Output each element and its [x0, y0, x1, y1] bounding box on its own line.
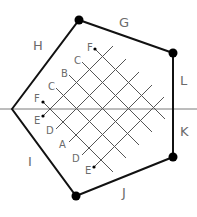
vertex-dot-top-right: [169, 49, 178, 58]
label-dot-e-left: [41, 114, 44, 117]
grid-label-f-left: F: [34, 93, 40, 104]
vertex-dot-bottom-left: [72, 192, 81, 201]
grid-label-a: A: [59, 139, 66, 150]
label-dot-f-top: [93, 47, 96, 50]
grid-label-e-bottom: E: [85, 165, 91, 176]
label-dot-e-bottom: [92, 165, 95, 168]
grid-label-c-upper: C: [74, 55, 81, 66]
edge-label-j: J: [121, 185, 126, 200]
grid-label-d-lower: D: [72, 153, 80, 164]
label-dot-f-left: [41, 100, 44, 103]
edge-label-l: L: [180, 73, 188, 88]
edge-label-h: H: [33, 38, 43, 53]
edge-label-g: G: [119, 15, 129, 30]
grid-label-c-lower: C: [48, 81, 55, 92]
diagram-canvas: H G L K J I F C B C F E D A D E: [0, 0, 197, 217]
grid-label-d-upper: D: [46, 125, 54, 136]
vertex-dot-top-left: [75, 16, 84, 25]
grid-label-f-top: F: [87, 42, 93, 53]
grid-label-b: B: [61, 68, 68, 79]
edge-label-k: K: [180, 124, 189, 139]
vertex-dot-bottom-right: [169, 153, 178, 162]
grid-label-e-left: E: [34, 115, 40, 126]
edge-label-i: I: [28, 154, 32, 169]
